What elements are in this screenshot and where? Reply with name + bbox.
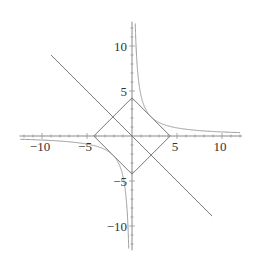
hyperbola-branch xyxy=(135,24,240,133)
axes xyxy=(20,22,242,251)
x-tick-label: −10 xyxy=(30,139,50,154)
y-tick-label: −10 xyxy=(107,219,127,234)
x-tick-label: 10 xyxy=(214,139,227,154)
y-tick-label: 5 xyxy=(121,84,128,99)
plot-canvas: −10−5510−10−5510 xyxy=(0,0,256,265)
x-tick-label: 5 xyxy=(172,139,179,154)
y-tick-label: 10 xyxy=(114,39,127,54)
y-tick-label: −5 xyxy=(113,174,127,189)
x-tick-label: −5 xyxy=(78,139,92,154)
